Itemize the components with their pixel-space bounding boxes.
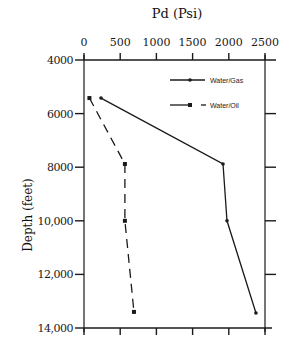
y-tick-label: 6000 bbox=[47, 108, 73, 121]
series-line-water-gas bbox=[101, 98, 256, 313]
legend: Water/GasWater/Oil bbox=[170, 77, 244, 109]
legend-gas-label: Water/Gas bbox=[210, 77, 244, 84]
data-marker bbox=[225, 219, 229, 223]
x-tick-label: 500 bbox=[110, 36, 131, 49]
data-marker bbox=[254, 311, 258, 315]
y-tick-label: 8000 bbox=[47, 161, 73, 174]
data-marker bbox=[87, 96, 91, 100]
data-marker bbox=[132, 310, 136, 314]
data-marker bbox=[99, 96, 103, 100]
legend-oil-label: Water/Oil bbox=[210, 102, 239, 109]
data-marker bbox=[221, 162, 225, 166]
data-marker bbox=[123, 219, 127, 223]
x-axis-title: Pd (Psi) bbox=[152, 6, 203, 21]
series-layer bbox=[87, 96, 257, 315]
depth-pressure-chart: 0500100015002000250040006000800010,00012… bbox=[0, 0, 295, 350]
y-tick-label: 4000 bbox=[47, 54, 73, 67]
legend-gas-marker bbox=[188, 78, 192, 82]
x-tick-label: 0 bbox=[81, 36, 88, 49]
data-marker bbox=[123, 162, 127, 166]
x-tick-label: 2500 bbox=[251, 36, 279, 49]
series-line-water-oil bbox=[89, 98, 134, 312]
y-tick-label: 14,000 bbox=[38, 322, 74, 335]
x-tick-label: 1500 bbox=[179, 36, 207, 49]
y-tick-label: 10,000 bbox=[38, 215, 74, 228]
legend-oil-marker bbox=[188, 103, 192, 107]
x-tick-label: 2000 bbox=[215, 36, 243, 49]
y-axis-title: Depth (feet) bbox=[21, 178, 35, 252]
y-tick-label: 12,000 bbox=[38, 268, 74, 281]
x-tick-label: 1000 bbox=[142, 36, 170, 49]
